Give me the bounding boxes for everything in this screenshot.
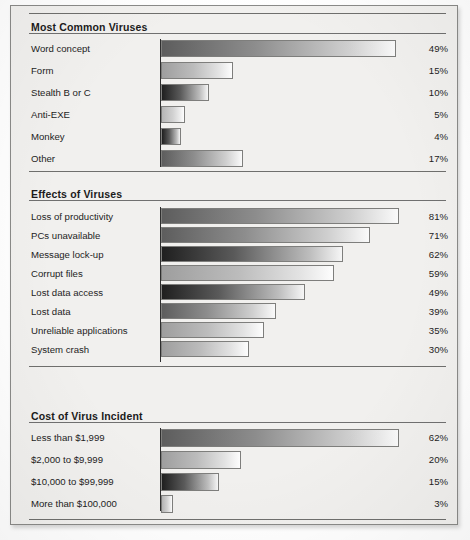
- bar-label: $10,000 to $99,999: [31, 476, 114, 487]
- bar-effects-4: [161, 284, 305, 300]
- bar-most-common-4: [161, 128, 181, 145]
- bar-label: Word concept: [31, 43, 90, 54]
- bar-value: 3%: [412, 498, 448, 509]
- bar-effects-5: [161, 303, 276, 319]
- panel-top-rule: [29, 13, 446, 14]
- bar-label: More than $100,000: [31, 498, 117, 509]
- bar-value: 71%: [412, 230, 448, 241]
- bar-label: Lost data access: [31, 287, 103, 298]
- bar-label: Loss of productivity: [31, 211, 113, 222]
- title-underline: [29, 200, 446, 201]
- bar-value: 62%: [412, 249, 448, 260]
- bar-value: 49%: [412, 287, 448, 298]
- bar-value: 81%: [412, 211, 448, 222]
- page-sheet: Most Common Viruses Word concept 49% For…: [10, 5, 458, 525]
- bar-value: 15%: [412, 65, 448, 76]
- bar-most-common-3: [161, 106, 185, 123]
- bar-value: 5%: [412, 109, 448, 120]
- bar-label: Other: [31, 153, 55, 164]
- chart-title-most-common-viruses: Most Common Viruses: [31, 21, 147, 33]
- bar-value: 10%: [412, 87, 448, 98]
- bar-value: 20%: [412, 454, 448, 465]
- bar-value: 15%: [412, 476, 448, 487]
- scanned-chart-page: Most Common Viruses Word concept 49% For…: [0, 0, 470, 540]
- title-underline: [29, 33, 446, 34]
- bar-cost-3: [161, 495, 173, 513]
- bar-value: 4%: [412, 131, 448, 142]
- bar-effects-3: [161, 265, 334, 281]
- bar-effects-7: [161, 341, 249, 357]
- panel-bottom-rule: [29, 366, 446, 367]
- bar-value: 17%: [412, 153, 448, 164]
- bar-value: 49%: [412, 43, 448, 54]
- bar-value: 30%: [412, 344, 448, 355]
- bar-label: Form: [31, 65, 53, 76]
- bar-value: 35%: [412, 325, 448, 336]
- bar-label: Monkey: [31, 131, 65, 142]
- bar-value: 59%: [412, 268, 448, 279]
- bar-effects-2: [161, 246, 343, 262]
- bar-label: Message lock-up: [31, 249, 104, 260]
- title-underline: [29, 422, 446, 423]
- chart-title-effects-of-viruses: Effects of Viruses: [31, 188, 122, 200]
- bar-effects-1: [161, 227, 370, 243]
- chart-axis-line: [160, 39, 161, 167]
- bar-most-common-1: [161, 62, 233, 79]
- bar-label: PCs unavailable: [31, 230, 100, 241]
- bar-label: Unreliable applications: [31, 325, 128, 336]
- bar-label: Anti-EXE: [31, 109, 70, 120]
- bar-label: Stealth B or C: [31, 87, 91, 98]
- bar-label: System crash: [31, 344, 89, 355]
- bar-value: 62%: [412, 432, 448, 443]
- bar-label: Less than $1,999: [31, 432, 105, 443]
- bar-label: Corrupt files: [31, 268, 83, 279]
- bar-most-common-0: [161, 40, 396, 57]
- bar-cost-2: [161, 473, 219, 491]
- bar-effects-0: [161, 208, 399, 224]
- panel-bottom-rule: [29, 519, 446, 520]
- chart-title-cost-of-virus-incident: Cost of Virus Incident: [31, 410, 143, 422]
- bar-effects-6: [161, 322, 264, 338]
- bar-most-common-2: [161, 84, 209, 101]
- panel-bottom-rule: [29, 171, 446, 172]
- bar-most-common-5: [161, 150, 243, 167]
- bar-cost-1: [161, 451, 241, 469]
- bar-value: 39%: [412, 306, 448, 317]
- bar-cost-0: [161, 429, 399, 447]
- bar-label: $2,000 to $9,999: [31, 454, 103, 465]
- bar-label: Lost data: [31, 306, 70, 317]
